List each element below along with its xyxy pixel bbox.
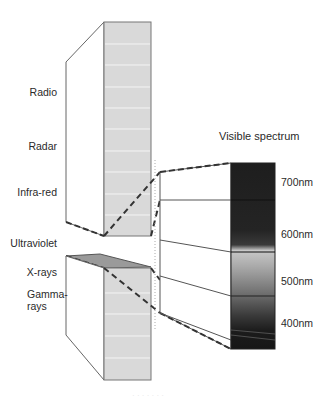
band-label-gamma-line1: Gamma-: [27, 288, 55, 300]
band-label-xrays: X-rays: [0, 266, 57, 278]
visible-spectrum-title: Visible spectrum: [219, 130, 300, 142]
em-spectrum-diagram: [0, 0, 328, 403]
tick-label-500nm: 500nm: [281, 275, 313, 287]
visible-spectrum-prism: [160, 163, 275, 349]
tick-label-400nm: 400nm: [281, 317, 313, 329]
band-label-infrared: Infra-red: [0, 186, 57, 198]
band-label-gamma-line2: rays: [27, 300, 55, 312]
band-label-radar: Radar: [0, 140, 57, 152]
band-label-ultraviolet: Ultraviolet: [0, 237, 57, 249]
tick-label-700nm: 700nm: [281, 176, 313, 188]
upper-prism: [66, 22, 151, 236]
faint-caption: · · · · · · ·: [132, 391, 164, 400]
band-label-gamma-rays: Gamma- rays: [0, 288, 55, 312]
band-label-radio: Radio: [0, 86, 57, 98]
tick-label-600nm: 600nm: [281, 228, 313, 240]
visible-spectrum-bar: [231, 163, 275, 349]
lower-prism: [66, 256, 151, 380]
